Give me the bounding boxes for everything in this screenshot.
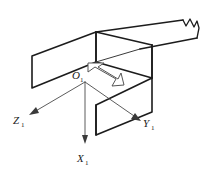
x-axis-arrowhead (82, 135, 88, 144)
figure-container: O 1 X 1 Y 1 Z 1 (0, 0, 209, 179)
z-axis-line (34, 82, 85, 112)
x-axis-label-subscript: 1 (85, 159, 89, 167)
origin-label: O (72, 69, 80, 81)
origin-label-subscript: 1 (80, 76, 84, 84)
z-axis-label-subscript: 1 (21, 121, 25, 129)
z-axis-arrowhead (29, 107, 39, 115)
y-axis-label: Y (143, 117, 151, 129)
isometric-beam-diagram: O 1 X 1 Y 1 Z 1 (0, 0, 209, 179)
left-flange-face (32, 32, 96, 88)
x-axis-label: X (76, 152, 85, 164)
z-axis-label: Z (13, 114, 20, 126)
y-axis-label-subscript: 1 (151, 124, 155, 132)
